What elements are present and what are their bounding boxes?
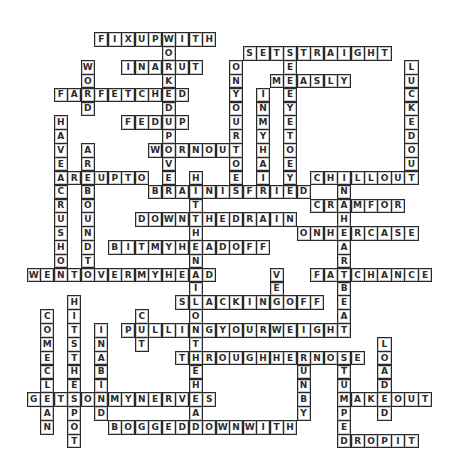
crossword-cell[interactable]: O (162, 143, 176, 158)
crossword-cell[interactable]: E (162, 171, 176, 186)
crossword-cell[interactable]: U (404, 157, 418, 172)
crossword-cell[interactable]: T (229, 143, 243, 158)
crossword-cell[interactable]: W (27, 268, 41, 283)
crossword-cell[interactable]: N (337, 185, 351, 200)
crossword-cell[interactable]: G (27, 392, 41, 407)
crossword-cell[interactable]: U (162, 115, 176, 130)
crossword-cell[interactable]: A (256, 157, 270, 172)
crossword-cell[interactable]: W (243, 420, 257, 435)
crossword-cell[interactable]: T (283, 129, 297, 144)
crossword-cell[interactable]: E (337, 226, 351, 241)
crossword-cell[interactable]: I (67, 309, 81, 324)
crossword-cell[interactable]: D (404, 129, 418, 144)
crossword-cell[interactable]: L (189, 295, 203, 310)
crossword-cell[interactable]: T (121, 88, 135, 103)
crossword-cell[interactable]: V (162, 157, 176, 172)
crossword-cell[interactable]: N (94, 392, 108, 407)
crossword-cell[interactable]: P (148, 32, 162, 47)
crossword-cell[interactable]: U (135, 32, 149, 47)
crossword-cell[interactable]: N (229, 420, 243, 435)
crossword-cell[interactable]: P (67, 406, 81, 421)
crossword-cell[interactable]: O (377, 351, 391, 366)
crossword-cell[interactable]: E (40, 351, 54, 366)
crossword-cell[interactable]: A (337, 309, 351, 324)
crossword-cell[interactable]: K (364, 392, 378, 407)
crossword-cell[interactable]: B (94, 365, 108, 380)
crossword-cell[interactable]: M (40, 337, 54, 352)
crossword-cell[interactable]: U (54, 212, 68, 227)
crossword-cell[interactable]: F (94, 88, 108, 103)
crossword-cell[interactable]: A (377, 268, 391, 283)
crossword-cell[interactable]: Y (216, 323, 230, 338)
crossword-cell[interactable]: R (297, 351, 311, 366)
crossword-cell[interactable]: N (94, 337, 108, 352)
crossword-cell[interactable]: H (189, 171, 203, 186)
crossword-cell[interactable]: E (283, 323, 297, 338)
crossword-cell[interactable]: F (310, 268, 324, 283)
crossword-cell[interactable]: E (283, 60, 297, 75)
crossword-cell[interactable]: W (216, 420, 230, 435)
crossword-cell[interactable]: U (229, 351, 243, 366)
crossword-cell[interactable]: P (175, 115, 189, 130)
crossword-cell[interactable]: U (81, 212, 95, 227)
crossword-cell[interactable]: E (135, 115, 149, 130)
crossword-cell[interactable]: T (121, 171, 135, 186)
crossword-cell[interactable]: H (202, 212, 216, 227)
crossword-cell[interactable]: I (121, 240, 135, 255)
crossword-cell[interactable]: E (404, 226, 418, 241)
crossword-cell[interactable]: V (175, 392, 189, 407)
crossword-cell[interactable]: I (256, 420, 270, 435)
crossword-cell[interactable]: T (337, 268, 351, 283)
crossword-cell[interactable]: R (175, 143, 189, 158)
crossword-cell[interactable]: I (270, 185, 284, 200)
crossword-cell[interactable]: M (270, 74, 284, 89)
crossword-cell[interactable]: O (229, 60, 243, 75)
crossword-cell[interactable]: U (216, 143, 230, 158)
crossword-cell[interactable]: R (162, 60, 176, 75)
crossword-cell[interactable]: X (121, 32, 135, 47)
crossword-cell[interactable]: N (256, 102, 270, 117)
crossword-cell[interactable]: A (297, 74, 311, 89)
crossword-cell[interactable]: U (94, 171, 108, 186)
crossword-cell[interactable]: I (216, 185, 230, 200)
crossword-cell[interactable]: T (67, 323, 81, 338)
crossword-cell[interactable]: A (377, 365, 391, 380)
crossword-cell[interactable]: N (135, 60, 149, 75)
crossword-cell[interactable]: I (175, 32, 189, 47)
crossword-cell[interactable]: F (364, 199, 378, 214)
crossword-cell[interactable]: I (337, 171, 351, 186)
crossword-cell[interactable]: O (148, 212, 162, 227)
crossword-cell[interactable]: O (81, 199, 95, 214)
crossword-cell[interactable]: E (351, 351, 365, 366)
crossword-cell[interactable]: A (189, 406, 203, 421)
crossword-cell[interactable]: N (202, 185, 216, 200)
crossword-cell[interactable]: E (189, 240, 203, 255)
crossword-cell[interactable]: Y (283, 171, 297, 186)
crossword-cell[interactable]: I (337, 46, 351, 61)
crossword-cell[interactable]: V (270, 268, 284, 283)
crossword-cell[interactable]: H (283, 420, 297, 435)
crossword-cell[interactable]: T (189, 212, 203, 227)
crossword-cell[interactable]: T (404, 171, 418, 186)
crossword-cell[interactable]: B (148, 185, 162, 200)
crossword-cell[interactable]: E (256, 46, 270, 61)
crossword-cell[interactable]: K (162, 74, 176, 89)
crossword-cell[interactable]: R (81, 157, 95, 172)
crossword-cell[interactable]: G (135, 420, 149, 435)
crossword-cell[interactable]: K (404, 102, 418, 117)
crossword-cell[interactable]: K (229, 295, 243, 310)
crossword-cell[interactable]: E (216, 212, 230, 227)
crossword-cell[interactable]: Y (297, 406, 311, 421)
crossword-cell[interactable]: U (135, 323, 149, 338)
crossword-cell[interactable]: O (391, 392, 405, 407)
crossword-cell[interactable]: D (337, 434, 351, 449)
crossword-cell[interactable]: F (243, 240, 257, 255)
crossword-cell[interactable]: T (189, 60, 203, 75)
crossword-cell[interactable]: F (54, 88, 68, 103)
crossword-cell[interactable]: E (40, 268, 54, 283)
crossword-cell[interactable]: H (270, 351, 284, 366)
crossword-cell[interactable]: T (297, 46, 311, 61)
crossword-cell[interactable]: N (189, 254, 203, 269)
crossword-cell[interactable]: E (418, 268, 432, 283)
crossword-cell[interactable]: C (404, 268, 418, 283)
